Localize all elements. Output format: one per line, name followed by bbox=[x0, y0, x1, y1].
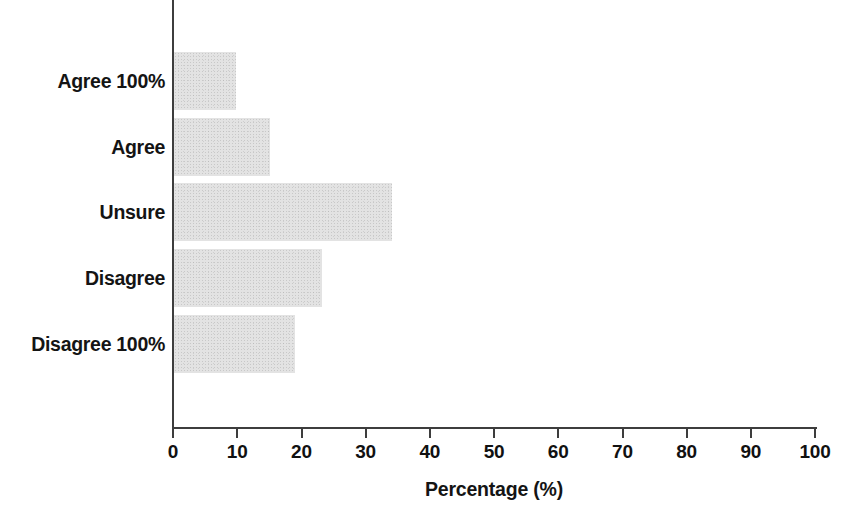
x-axis-tick-label: 0 bbox=[168, 441, 178, 463]
category-label: Agree 100% bbox=[57, 70, 165, 93]
bar-band bbox=[174, 249, 322, 307]
bar-band bbox=[174, 118, 270, 176]
bar bbox=[174, 249, 322, 307]
x-axis-tick bbox=[493, 429, 495, 438]
x-axis-tick-label: 20 bbox=[291, 441, 312, 463]
category-label: Unsure bbox=[100, 201, 165, 224]
x-axis-tick bbox=[236, 429, 238, 438]
x-axis-tick-label: 90 bbox=[740, 441, 761, 463]
category-label: Disagree 100% bbox=[31, 332, 165, 355]
category-label: Disagree bbox=[85, 267, 165, 290]
x-axis-tick-label: 40 bbox=[419, 441, 440, 463]
bar bbox=[174, 52, 236, 110]
x-axis-tick-label: 60 bbox=[548, 441, 569, 463]
bar-chart: 0102030405060708090100 Agree 100%AgreeUn… bbox=[0, 0, 841, 506]
x-axis-tick bbox=[557, 429, 559, 438]
bar-band bbox=[174, 315, 295, 373]
x-axis-tick-label: 80 bbox=[676, 441, 697, 463]
x-axis-tick bbox=[750, 429, 752, 438]
x-axis-tick bbox=[429, 429, 431, 438]
x-axis-tick bbox=[301, 429, 303, 438]
x-axis-tick bbox=[686, 429, 688, 438]
category-label: Agree bbox=[111, 135, 165, 158]
x-axis-tick bbox=[814, 429, 816, 438]
x-axis-tick bbox=[172, 429, 174, 438]
bar bbox=[174, 118, 270, 176]
bar bbox=[174, 183, 392, 241]
x-axis-tick bbox=[365, 429, 367, 438]
bar-band bbox=[174, 52, 236, 110]
x-axis-tick-label: 70 bbox=[612, 441, 633, 463]
x-axis-tick-label: 100 bbox=[799, 441, 830, 463]
x-axis-tick-label: 50 bbox=[484, 441, 505, 463]
x-axis-tick-label: 10 bbox=[227, 441, 248, 463]
x-axis-tick bbox=[622, 429, 624, 438]
x-axis-title-text: Percentage (%) bbox=[425, 478, 563, 501]
bar-band bbox=[174, 183, 392, 241]
bar bbox=[174, 315, 295, 373]
x-axis-tick-label: 30 bbox=[355, 441, 376, 463]
